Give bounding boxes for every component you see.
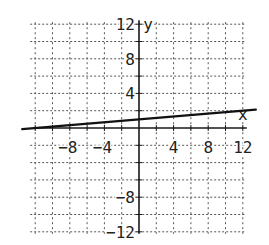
line-graph: 1284−8−12−8−44812yx: [0, 0, 269, 245]
y-tick-label: 8: [125, 50, 135, 69]
coordinate-plane: 1284−8−12−8−44812yx: [0, 0, 269, 245]
x-tick-label: −8: [58, 138, 77, 157]
x-axis-label: x: [238, 105, 248, 124]
y-axis-label: y: [143, 15, 153, 34]
y-tick-label: 4: [125, 84, 135, 103]
x-tick-label: 8: [203, 138, 213, 157]
y-tick-label: −12: [106, 223, 135, 242]
y-tick-label: 12: [116, 15, 135, 34]
x-tick-label: 12: [233, 138, 252, 157]
y-tick-label: −8: [116, 188, 135, 207]
axes: [33, 20, 247, 234]
x-tick-label: −4: [93, 138, 112, 157]
x-tick-label: 4: [169, 138, 179, 157]
